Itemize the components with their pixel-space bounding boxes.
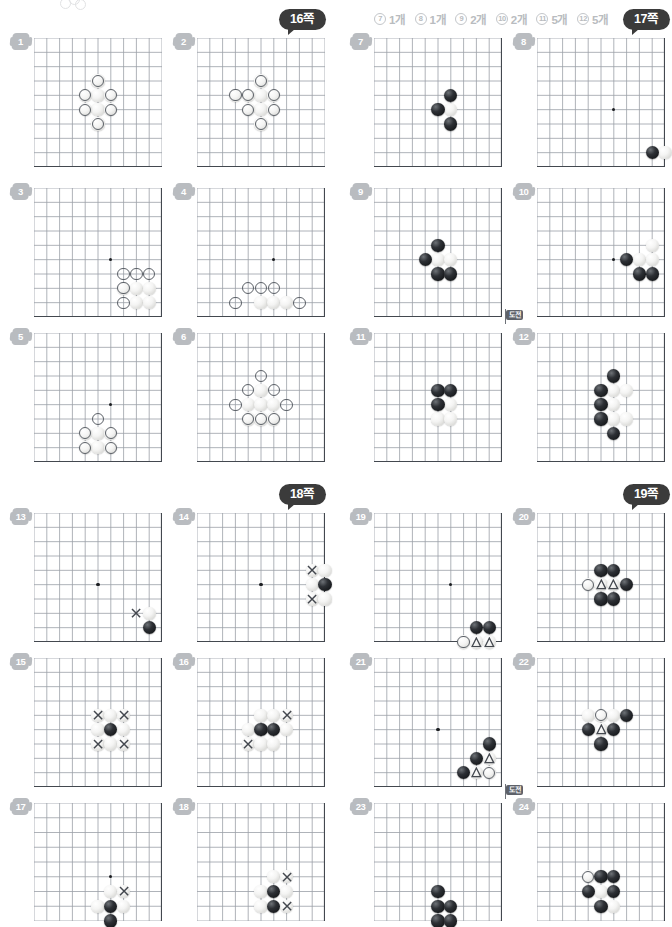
black-stone[interactable] bbox=[444, 117, 457, 130]
white-stone[interactable] bbox=[318, 592, 331, 605]
black-stone[interactable] bbox=[431, 239, 444, 252]
board-problem-11[interactable]: 11 bbox=[352, 328, 504, 468]
page-tab-16[interactable]: 16쪽 bbox=[279, 9, 326, 30]
white-stone[interactable] bbox=[143, 607, 156, 620]
black-stone[interactable] bbox=[444, 267, 457, 280]
board-problem-5[interactable]: 5 bbox=[12, 328, 164, 468]
page-tab-18[interactable]: 18쪽 bbox=[279, 484, 326, 505]
black-stone[interactable] bbox=[594, 870, 607, 883]
white-stone[interactable] bbox=[254, 103, 267, 116]
white-stone[interactable] bbox=[658, 146, 671, 159]
go-board-grid[interactable] bbox=[197, 333, 325, 462]
black-stone[interactable] bbox=[267, 900, 280, 913]
go-board-grid[interactable] bbox=[537, 38, 665, 167]
white-stone[interactable] bbox=[620, 412, 633, 425]
black-stone[interactable] bbox=[104, 900, 117, 913]
board-problem-24[interactable]: 24 bbox=[515, 798, 667, 927]
go-board-grid[interactable] bbox=[197, 513, 325, 642]
go-board-grid[interactable] bbox=[197, 803, 325, 921]
white-stone[interactable] bbox=[130, 296, 143, 309]
go-board-grid[interactable] bbox=[537, 803, 665, 921]
go-board-grid[interactable] bbox=[374, 803, 502, 921]
white-stone[interactable] bbox=[254, 737, 267, 750]
go-board-grid[interactable] bbox=[197, 658, 325, 787]
white-stone[interactable] bbox=[91, 900, 104, 913]
white-stone[interactable] bbox=[130, 282, 143, 295]
black-stone[interactable] bbox=[633, 267, 646, 280]
black-stone[interactable] bbox=[594, 564, 607, 577]
black-stone[interactable] bbox=[431, 885, 444, 898]
black-stone[interactable] bbox=[646, 146, 659, 159]
white-stone[interactable] bbox=[431, 253, 444, 266]
board-problem-21[interactable]: 21 bbox=[352, 653, 504, 793]
white-stone[interactable] bbox=[582, 709, 595, 722]
black-stone[interactable] bbox=[607, 369, 620, 382]
black-stone[interactable] bbox=[470, 752, 483, 765]
board-problem-4[interactable]: 4 bbox=[175, 183, 327, 323]
board-problem-2[interactable]: 2 bbox=[175, 33, 327, 173]
white-stone[interactable] bbox=[318, 564, 331, 577]
black-stone[interactable] bbox=[431, 398, 444, 411]
board-problem-14[interactable]: 14 bbox=[175, 508, 327, 648]
black-stone[interactable] bbox=[594, 412, 607, 425]
board-problem-17[interactable]: 17 bbox=[12, 798, 164, 927]
white-stone[interactable] bbox=[254, 709, 267, 722]
go-board-grid[interactable] bbox=[374, 333, 502, 462]
black-stone[interactable] bbox=[594, 384, 607, 397]
white-stone[interactable] bbox=[280, 885, 293, 898]
white-stone[interactable] bbox=[607, 900, 620, 913]
black-stone[interactable] bbox=[431, 914, 444, 927]
white-stone[interactable] bbox=[646, 253, 659, 266]
black-stone[interactable] bbox=[318, 578, 331, 591]
board-problem-1[interactable]: 1 bbox=[12, 33, 164, 173]
go-board-grid[interactable] bbox=[197, 38, 325, 167]
board-problem-7[interactable]: 7 bbox=[352, 33, 504, 173]
board-problem-12[interactable]: 12 bbox=[515, 328, 667, 468]
board-problem-19[interactable]: 19 bbox=[352, 508, 504, 648]
white-stone[interactable] bbox=[242, 723, 255, 736]
white-stone[interactable] bbox=[91, 723, 104, 736]
board-problem-10[interactable]: 10 bbox=[515, 183, 667, 323]
white-stone[interactable] bbox=[254, 384, 267, 397]
black-stone[interactable] bbox=[431, 900, 444, 913]
white-stone[interactable] bbox=[431, 412, 444, 425]
black-stone[interactable] bbox=[444, 900, 457, 913]
go-board-grid[interactable] bbox=[374, 658, 502, 787]
go-board-grid[interactable] bbox=[374, 38, 502, 167]
black-stone[interactable] bbox=[594, 398, 607, 411]
board-problem-8[interactable]: 8 bbox=[515, 33, 667, 173]
white-stone[interactable] bbox=[117, 900, 130, 913]
board-problem-20[interactable]: 20 bbox=[515, 508, 667, 648]
black-stone[interactable] bbox=[431, 384, 444, 397]
white-stone[interactable] bbox=[91, 441, 104, 454]
go-board-grid[interactable] bbox=[537, 658, 665, 787]
black-stone[interactable] bbox=[594, 737, 607, 750]
white-stone[interactable] bbox=[254, 885, 267, 898]
black-stone[interactable] bbox=[582, 885, 595, 898]
board-problem-16[interactable]: 16 bbox=[175, 653, 327, 793]
black-stone[interactable] bbox=[143, 621, 156, 634]
black-stone[interactable] bbox=[483, 737, 496, 750]
go-board-grid[interactable] bbox=[537, 513, 665, 642]
white-stone[interactable] bbox=[633, 253, 646, 266]
white-stone[interactable] bbox=[620, 384, 633, 397]
white-stone[interactable] bbox=[91, 427, 104, 440]
white-stone[interactable] bbox=[143, 282, 156, 295]
go-board-grid[interactable] bbox=[537, 188, 665, 317]
white-stone[interactable] bbox=[254, 89, 267, 102]
black-stone[interactable] bbox=[431, 267, 444, 280]
black-stone[interactable] bbox=[419, 253, 432, 266]
go-board-grid[interactable] bbox=[34, 658, 162, 787]
go-board-grid[interactable] bbox=[374, 513, 502, 642]
black-stone[interactable] bbox=[104, 914, 117, 927]
white-stone[interactable] bbox=[267, 737, 280, 750]
go-board-grid[interactable] bbox=[197, 188, 325, 317]
white-stone[interactable] bbox=[254, 900, 267, 913]
go-board-grid[interactable] bbox=[34, 188, 162, 317]
white-stone[interactable] bbox=[254, 398, 267, 411]
black-stone[interactable] bbox=[594, 900, 607, 913]
white-stone[interactable] bbox=[594, 885, 607, 898]
black-stone[interactable] bbox=[431, 103, 444, 116]
black-stone[interactable] bbox=[620, 709, 633, 722]
black-stone[interactable] bbox=[607, 592, 620, 605]
